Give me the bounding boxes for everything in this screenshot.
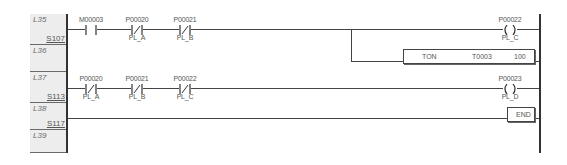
normally-closed-contact-icon[interactable] xyxy=(131,84,143,94)
gutter-separator xyxy=(30,152,67,153)
line-number: L36 xyxy=(33,46,46,55)
contact-address: P00022 xyxy=(165,75,205,82)
contact-address: P00020 xyxy=(71,75,111,82)
branch-wire xyxy=(535,61,539,62)
coil-comment: PL_D xyxy=(490,93,530,100)
gutter-separator xyxy=(30,102,67,103)
branch-wire xyxy=(351,29,352,62)
output-coil-icon[interactable] xyxy=(503,84,517,94)
contact-address: P00020 xyxy=(117,16,157,23)
contact-comment: PL_C xyxy=(165,93,205,100)
contact-comment: PL_B xyxy=(165,34,205,41)
line-number: L39 xyxy=(33,131,46,140)
contact-comment: PL_B xyxy=(117,93,157,100)
step-number: S107 xyxy=(35,34,65,43)
line-number: L37 xyxy=(33,73,46,82)
contact-comment: PL_A xyxy=(71,93,111,100)
branch-wire xyxy=(351,61,403,62)
line-number: L38 xyxy=(33,104,46,113)
rung-3-wire xyxy=(68,118,507,119)
step-number: S117 xyxy=(35,119,65,128)
end-label: END xyxy=(516,111,531,118)
end-block[interactable]: END xyxy=(507,107,535,122)
timer-operand: T0003 xyxy=(472,53,492,60)
gutter-separator xyxy=(30,44,67,45)
left-power-rail xyxy=(66,14,68,153)
line-number: L35 xyxy=(33,15,46,24)
ton-timer-block[interactable]: TON T0003 100 xyxy=(403,49,535,64)
function-name: TON xyxy=(422,53,437,60)
rung-3-wire xyxy=(535,118,539,119)
gutter-separator xyxy=(30,129,67,130)
coil-address: P00022 xyxy=(490,16,530,23)
timer-preset: 100 xyxy=(514,53,526,60)
right-power-rail xyxy=(539,14,541,153)
normally-closed-contact-icon[interactable] xyxy=(179,25,191,35)
coil-address: P00023 xyxy=(490,75,530,82)
output-coil-icon[interactable] xyxy=(503,25,517,35)
contact-address: M00003 xyxy=(71,16,111,23)
normally-closed-contact-icon[interactable] xyxy=(131,25,143,35)
gutter-separator xyxy=(30,71,67,72)
step-number: S113 xyxy=(35,92,65,101)
contact-address: P00021 xyxy=(117,75,157,82)
normally-closed-contact-icon[interactable] xyxy=(179,84,191,94)
contact-comment: PL_A xyxy=(117,34,157,41)
normally-open-contact-icon[interactable] xyxy=(85,25,97,35)
contact-address: P00021 xyxy=(165,16,205,23)
coil-comment: PL_C xyxy=(490,34,530,41)
normally-closed-contact-icon[interactable] xyxy=(85,84,97,94)
